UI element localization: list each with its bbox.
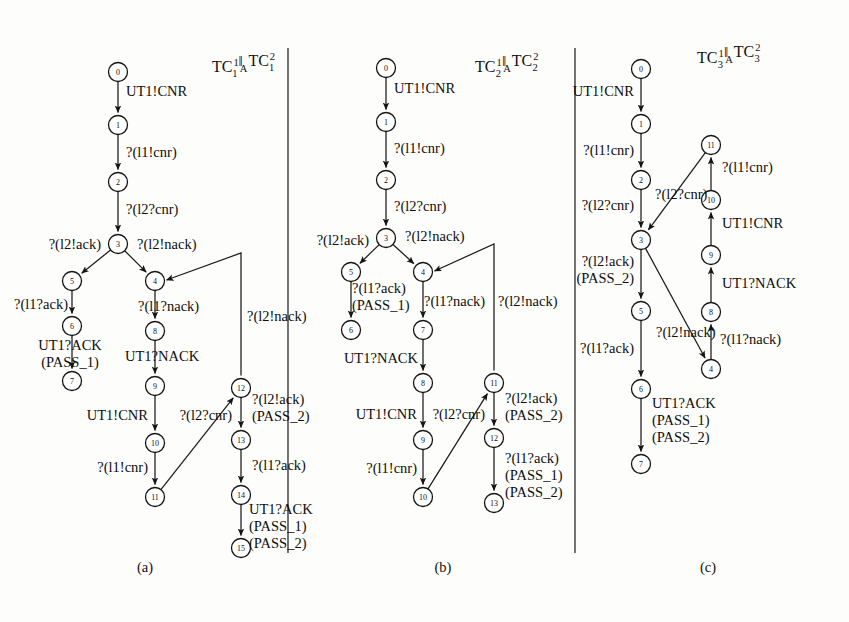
edge-label-c-1-2: ?(l1!cnr) (583, 142, 634, 159)
state-node-c-4[interactable]: 4 (702, 360, 721, 379)
edge-b-3-to-4 (393, 244, 414, 263)
state-node-b-10[interactable]: 10 (414, 488, 433, 507)
state-id-label: 10 (151, 439, 159, 448)
state-id-label: 8 (709, 308, 713, 317)
edge-label-b-1-2: ?(l1!cnr) (394, 140, 445, 157)
edge-label-b-12-13: ?(l1?ack)(PASS_1)(PASS_2) (505, 450, 563, 501)
state-id-label: 14 (237, 491, 245, 500)
panel-title-b: TC12‖ATC22 (475, 51, 538, 79)
edge-label-a-8-9: UT1?NACK (125, 348, 200, 364)
state-node-c-1[interactable]: 1 (632, 115, 651, 134)
figure-page: 0123546879121013111415012354678119121013… (0, 0, 849, 622)
edge-label-c-11-3: ?(l2?cnr) (655, 186, 707, 203)
state-node-b-6[interactable]: 6 (342, 321, 361, 340)
edge-label-c-3-4: ?(l2!nack) (656, 324, 716, 341)
edge-label-a-13-14: ?(l1?ack) (252, 457, 306, 474)
state-node-a-10[interactable]: 10 (146, 434, 165, 453)
edge-label-a-5-6: ?(l1?ack) (14, 296, 68, 313)
state-node-b-12[interactable]: 12 (485, 429, 504, 448)
edge-label-b-11-12: ?(l2!ack)(PASS_2) (505, 390, 563, 424)
state-node-c-7[interactable]: 7 (632, 455, 651, 474)
edge-label-b-2-3: ?(l2?cnr) (394, 198, 446, 215)
state-node-b-8[interactable]: 8 (414, 374, 433, 393)
edge-label-a-9-10: UT1!CNR (87, 407, 149, 423)
edge-label-a-0-1: UT1!CNR (126, 83, 188, 99)
state-id-label: 2 (639, 176, 643, 185)
diagram-canvas: 0123546879121013111415012354678119121013… (0, 0, 849, 622)
state-id-label: 11 (490, 379, 498, 388)
state-id-label: 2 (116, 178, 120, 187)
state-node-b-11[interactable]: 11 (485, 374, 504, 393)
state-node-a-5[interactable]: 5 (63, 272, 82, 291)
state-id-label: 7 (70, 377, 74, 386)
state-node-c-2[interactable]: 2 (632, 171, 651, 190)
edge-label-a-4-8: ?(l1?nack) (138, 298, 199, 315)
state-id-label: 3 (384, 234, 388, 243)
edge-label-a-1-2: ?(l1!cnr) (126, 144, 177, 161)
state-node-c-11[interactable]: 11 (702, 136, 721, 155)
state-node-b-0[interactable]: 0 (377, 59, 396, 78)
state-id-label: 1 (384, 118, 388, 127)
state-node-b-13[interactable]: 13 (485, 494, 504, 513)
edge-label-c-4-8: ?(l1?nack) (720, 331, 781, 348)
edge-label-c-0-1: UT1!CNR (573, 83, 635, 99)
edge-label-b-8-9: UT1!CNR (356, 406, 418, 422)
state-id-label: 13 (490, 499, 498, 508)
state-id-label: 12 (490, 434, 498, 443)
edge-label-c-2-3: ?(l2?cnr) (582, 197, 634, 214)
panel-captions-layer: (a)(b)(c) (137, 559, 716, 576)
state-node-b-2[interactable]: 2 (377, 171, 396, 190)
state-node-c-0[interactable]: 0 (632, 60, 651, 79)
state-node-a-12[interactable]: 12 (232, 379, 251, 398)
state-node-a-2[interactable]: 2 (109, 173, 128, 192)
state-node-a-0[interactable]: 0 (109, 63, 128, 82)
state-node-a-1[interactable]: 1 (109, 116, 128, 135)
state-node-a-9[interactable]: 9 (146, 377, 165, 396)
state-node-a-3[interactable]: 3 (109, 235, 128, 254)
edge-a-3-to-4 (125, 251, 146, 272)
state-id-label: 4 (421, 268, 425, 277)
state-id-label: 0 (116, 68, 120, 77)
state-id-label: 6 (349, 326, 353, 335)
state-node-b-3[interactable]: 3 (377, 229, 396, 248)
state-id-label: 4 (709, 365, 713, 374)
state-id-label: 7 (421, 326, 425, 335)
edge-label-b-4-7: ?(l1?nack) (424, 293, 485, 310)
state-node-a-7[interactable]: 7 (63, 372, 82, 391)
state-node-b-5[interactable]: 5 (342, 263, 361, 282)
state-id-label: 5 (70, 277, 74, 286)
state-node-b-9[interactable]: 9 (414, 431, 433, 450)
state-node-b-4[interactable]: 4 (414, 263, 433, 282)
edge-label-a-4-12: ?(l2!nack) (247, 308, 307, 325)
panel-titles-layer: TC11‖ATC21TC12‖ATC22TC13‖ATC23 (212, 42, 760, 79)
edge-label-c-3-5: ?(l2!ack)(PASS_2) (577, 253, 635, 287)
state-node-a-15[interactable]: 15 (232, 539, 251, 558)
edge-a-3-to-5 (82, 250, 111, 273)
state-id-label: 0 (639, 65, 643, 74)
state-id-label: 8 (153, 327, 157, 336)
panel-caption-b: (b) (435, 559, 452, 576)
state-node-a-11[interactable]: 11 (146, 488, 165, 507)
edge-label-c-9-10: UT1!CNR (722, 215, 784, 231)
state-node-b-1[interactable]: 1 (377, 113, 396, 132)
edge-label-b-3-4: ?(l2!nack) (405, 228, 465, 245)
state-node-a-4[interactable]: 4 (146, 272, 165, 291)
state-node-a-14[interactable]: 14 (232, 486, 251, 505)
state-id-label: 7 (639, 460, 643, 469)
panel-title-a: TC11‖ATC21 (212, 51, 275, 79)
state-node-a-13[interactable]: 13 (232, 431, 251, 450)
state-node-a-8[interactable]: 8 (146, 322, 165, 341)
state-node-b-7[interactable]: 7 (414, 321, 433, 340)
edge-label-c-8-9: UT1?NACK (722, 275, 797, 291)
edge-label-a-3-4: ?(l2!nack) (137, 236, 197, 253)
state-node-c-6[interactable]: 6 (632, 380, 651, 399)
panel-caption-a: (a) (137, 559, 153, 576)
state-node-c-3[interactable]: 3 (632, 231, 651, 250)
state-node-c-8[interactable]: 8 (702, 303, 721, 322)
edge-label-b-5-6: ?(l1?ack)(PASS_1) (352, 280, 410, 314)
state-id-label: 4 (153, 277, 157, 286)
state-node-c-5[interactable]: 5 (632, 302, 651, 321)
edge-label-b-4-11: ?(l2!nack) (498, 293, 558, 310)
state-node-c-9[interactable]: 9 (702, 246, 721, 265)
state-node-a-6[interactable]: 6 (63, 317, 82, 336)
